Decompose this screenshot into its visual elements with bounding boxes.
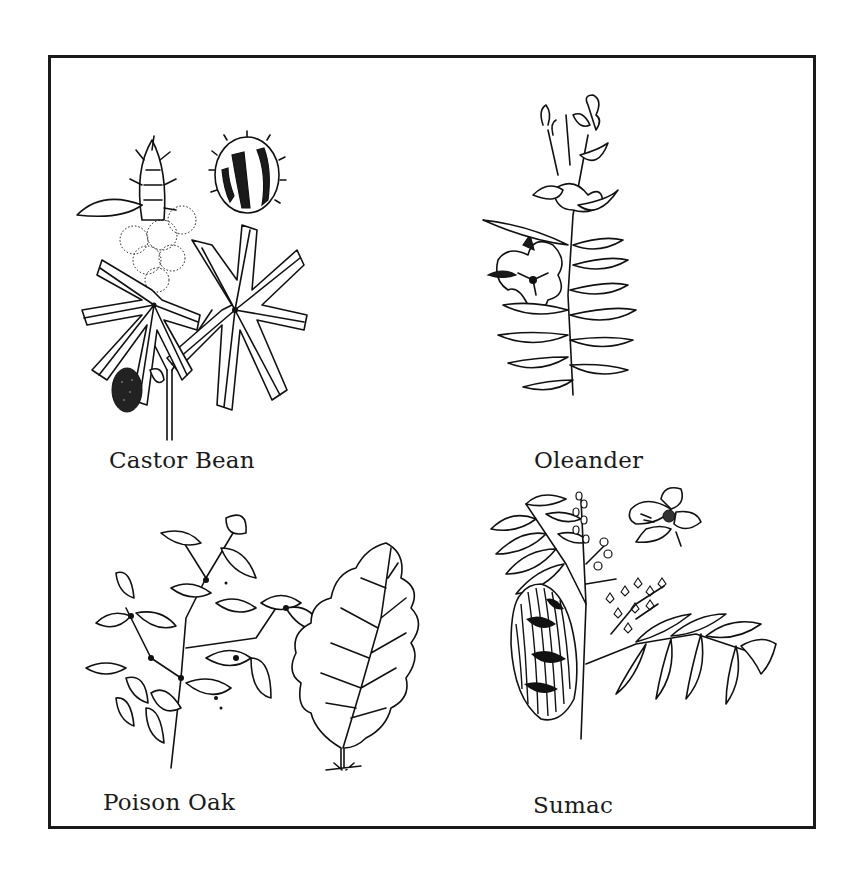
poison-oak-illustration (86, 508, 426, 776)
sumac-label: Sumac (533, 792, 613, 818)
oleander-label: Oleander (534, 447, 643, 473)
poison-oak-label: Poison Oak (103, 789, 235, 815)
castor-bean-label: Castor Bean (109, 447, 255, 473)
castor-bean-illustration (72, 130, 312, 440)
oleander-illustration (478, 95, 648, 395)
sumac-illustration (486, 484, 786, 744)
